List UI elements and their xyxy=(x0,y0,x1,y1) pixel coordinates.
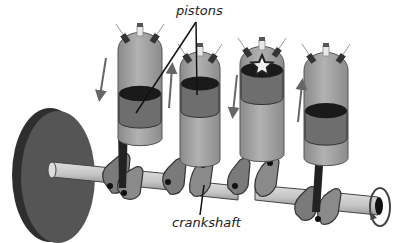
valve-stem-icon xyxy=(156,24,164,36)
cylinder xyxy=(302,43,350,166)
valve-stem-icon xyxy=(214,44,222,56)
pistons-label: pistons xyxy=(176,3,223,18)
valve-stem-icon xyxy=(116,24,124,36)
engine-diagram xyxy=(0,0,401,243)
arrow-down-icon xyxy=(100,58,106,96)
spark-plug-tip-icon xyxy=(137,23,143,27)
valve-stem-icon xyxy=(178,44,186,56)
spark-plug-icon xyxy=(197,46,203,56)
valve-stem-icon xyxy=(278,38,286,50)
pistons-group xyxy=(116,23,350,167)
crankshaft-label: crankshaft xyxy=(172,215,241,230)
cylinder xyxy=(238,37,286,162)
valve-stem-icon xyxy=(302,44,310,56)
spark-plug-icon xyxy=(323,46,329,56)
arrow-up-icon xyxy=(298,84,302,122)
arrow-down-icon xyxy=(233,75,237,113)
piston-top xyxy=(305,103,347,118)
spark-plug-icon xyxy=(259,40,265,50)
spark-plug-tip-icon xyxy=(197,43,203,47)
valve-stem-icon xyxy=(342,44,350,56)
spark-plug-icon xyxy=(137,26,143,36)
arrow-up-icon xyxy=(169,68,172,108)
valve-stem-icon xyxy=(238,38,246,50)
piston-top xyxy=(181,77,219,91)
cylinder xyxy=(178,43,222,167)
cylinder xyxy=(116,23,164,146)
spark-plug-tip-icon xyxy=(323,43,329,47)
spark-plug-tip-icon xyxy=(259,37,265,41)
piston-top xyxy=(119,86,161,101)
